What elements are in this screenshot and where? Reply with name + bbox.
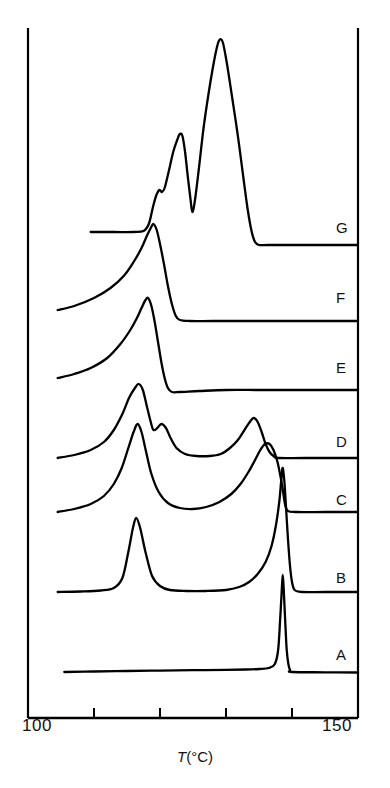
curve-b <box>58 468 358 592</box>
x-axis-title-units: (°C) <box>186 748 213 765</box>
curve-label-c: C <box>336 491 360 508</box>
dsc-thermogram-figure: 100 150 T(°C) ABCDEFG <box>0 0 390 788</box>
curve-c <box>58 424 358 512</box>
curve-g <box>91 39 358 245</box>
x-tick-marks <box>94 708 292 718</box>
curve-label-g: G <box>336 219 360 236</box>
chart-canvas <box>0 0 390 788</box>
curve-label-f: F <box>336 289 360 306</box>
curve-label-b: B <box>336 569 360 586</box>
curve-e <box>58 298 358 393</box>
x-axis-min-tick-label: 100 <box>22 716 52 736</box>
x-axis-title: T(°C) <box>0 748 390 765</box>
curve-label-e: E <box>336 359 360 376</box>
curve-d <box>58 384 358 458</box>
curve-label-d: D <box>336 433 360 450</box>
x-axis-max-tick-label: 150 <box>322 716 352 736</box>
curve-group <box>58 39 358 672</box>
x-axis-title-symbol: T <box>177 748 186 765</box>
curve-label-a: A <box>336 646 360 663</box>
curve-f <box>58 224 358 321</box>
